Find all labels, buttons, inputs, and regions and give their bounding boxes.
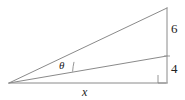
- geometry-figure: 6 4 x θ: [0, 0, 185, 100]
- upper-segment-label: 6: [171, 22, 178, 35]
- base-label: x: [82, 86, 87, 98]
- right-angle-icon: [158, 75, 166, 83]
- figure-canvas: [0, 0, 185, 100]
- upper-hypotenuse-line: [9, 8, 167, 83]
- angle-label: θ: [59, 60, 64, 71]
- angle-arc-icon: [73, 62, 74, 72]
- lower-hypotenuse-line: [9, 56, 167, 83]
- lower-segment-label: 4: [171, 62, 178, 75]
